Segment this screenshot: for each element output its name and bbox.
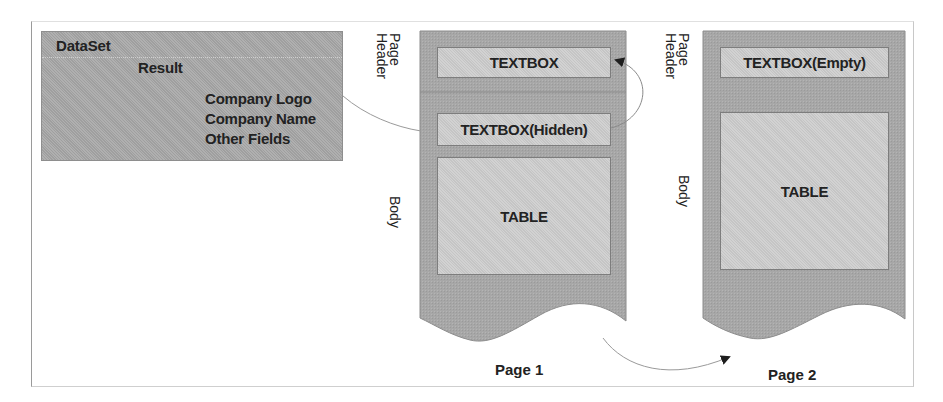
page-2-label: Page 2 bbox=[768, 366, 816, 383]
page-1-header-label: Page Header bbox=[375, 33, 401, 79]
page-1-hidden-textbox: TEXTBOX(Hidden) bbox=[437, 113, 611, 146]
page-2-header-label-line2: Header bbox=[663, 33, 679, 79]
connector-dataset-to-hidden bbox=[343, 96, 421, 131]
page-1-header-label-line2: Header bbox=[374, 33, 390, 79]
page-1-body-label: Body bbox=[388, 196, 401, 228]
page-2-header-label: Page Header bbox=[664, 33, 690, 79]
page-1-label: Page 1 bbox=[495, 361, 543, 378]
arrow-page1-to-page2 bbox=[603, 338, 729, 370]
page-2-header-textbox: TEXTBOX(Empty) bbox=[720, 47, 889, 78]
page-1-table: TABLE bbox=[437, 157, 611, 275]
page-2-body-label: Body bbox=[677, 175, 690, 207]
page-2-table: TABLE bbox=[720, 112, 889, 270]
page-1-header-textbox: TEXTBOX bbox=[437, 47, 611, 78]
